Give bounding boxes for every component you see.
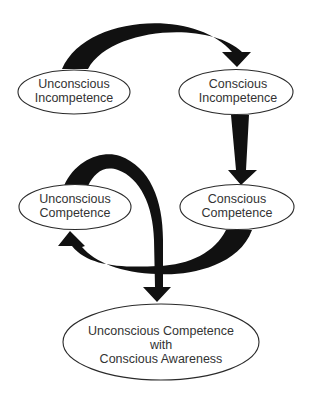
arrow-ui-to-ci [62, 23, 251, 69]
node-label-line: Unconscious Competence [88, 324, 234, 338]
node-unconscious-incompetence: Unconscious Incompetence [18, 70, 130, 114]
node-label-line: Conscious [208, 192, 266, 206]
node-label-line: Unconscious [38, 77, 110, 91]
node-label-line: Competence [202, 206, 273, 220]
node-label-line: Incompetence [199, 91, 278, 105]
node-label-line: Unconscious [39, 192, 111, 206]
node-label-line: Conscious [209, 77, 267, 91]
node-label-line: Incompetence [35, 91, 114, 105]
node-label-line: Conscious Awareness [100, 352, 223, 366]
competence-diagram: Unconscious Incompetence Conscious Incom… [0, 0, 311, 404]
node-label-line: with [149, 338, 172, 352]
node-label-line: Competence [40, 206, 111, 220]
node-unconscious-competence-with-awareness: Unconscious Competence with Conscious Aw… [63, 304, 259, 380]
arrow-ci-to-cc [228, 115, 257, 185]
node-conscious-competence: Conscious Competence [180, 185, 294, 230]
node-conscious-incompetence: Conscious Incompetence [179, 70, 293, 115]
node-unconscious-competence: Unconscious Competence [19, 185, 131, 230]
